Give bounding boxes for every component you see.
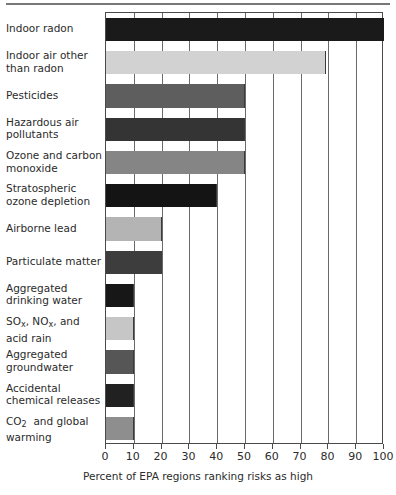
category-label: Accidentalchemical releases bbox=[6, 382, 103, 407]
x-tick-label-0: 0 bbox=[102, 450, 109, 464]
category-label-line: than radon bbox=[6, 62, 103, 75]
category-label: Aggregateddrinking water bbox=[6, 282, 103, 307]
x-tick-70 bbox=[300, 444, 301, 449]
bar-row bbox=[106, 18, 382, 41]
category-label: Indoor radon bbox=[6, 22, 103, 35]
top-divider-rule bbox=[6, 3, 390, 5]
bar-row bbox=[106, 251, 382, 274]
bar-row bbox=[106, 284, 382, 307]
category-label-line: Aggregated bbox=[6, 282, 103, 295]
bar-row bbox=[106, 217, 382, 240]
x-tick-label-80: 80 bbox=[320, 450, 334, 464]
bar-row bbox=[106, 118, 382, 141]
x-tick-30 bbox=[188, 444, 189, 449]
category-label: Hazardous airpollutants bbox=[6, 116, 103, 141]
category-label-line: groundwater bbox=[6, 361, 103, 374]
bar bbox=[106, 217, 162, 240]
bar bbox=[106, 18, 384, 41]
category-label-line: pollutants bbox=[6, 128, 103, 141]
bar bbox=[106, 251, 162, 274]
bar-row bbox=[106, 84, 382, 107]
category-label-line: Accidental bbox=[6, 382, 103, 395]
x-tick-label-60: 60 bbox=[265, 450, 279, 464]
bar bbox=[106, 350, 134, 373]
chart-figure: Indoor radonIndoor air otherthan radonPe… bbox=[0, 0, 396, 495]
category-label: Airborne lead bbox=[6, 222, 103, 235]
x-tick-label-70: 70 bbox=[293, 450, 307, 464]
category-label: Aggregatedgroundwater bbox=[6, 348, 103, 373]
category-label: Ozone and carbonmonoxide bbox=[6, 149, 103, 174]
bar-series bbox=[106, 13, 382, 443]
x-tick-label-30: 30 bbox=[181, 450, 195, 464]
bar bbox=[106, 317, 134, 340]
category-label: CO2 and globalwarming bbox=[6, 415, 103, 444]
bar bbox=[106, 118, 245, 141]
category-label-line: chemical releases bbox=[6, 394, 103, 407]
category-label-line: Indoor radon bbox=[6, 22, 103, 35]
x-axis-title: Percent of EPA regions ranking risks as … bbox=[0, 470, 396, 482]
bar-row bbox=[106, 417, 382, 440]
plot-area bbox=[105, 12, 383, 444]
bar-row bbox=[106, 51, 382, 74]
x-tick-80 bbox=[327, 444, 328, 449]
category-label-line: Pesticides bbox=[6, 89, 103, 102]
bar-row bbox=[106, 151, 382, 174]
x-tick-label-20: 20 bbox=[154, 450, 168, 464]
bar bbox=[106, 384, 134, 407]
category-label-line: SOx, NOx, and bbox=[6, 315, 103, 332]
bar bbox=[106, 151, 245, 174]
bar bbox=[106, 51, 326, 74]
x-axis-tick-labels: 0102030405060708090100 bbox=[0, 450, 396, 466]
category-axis-labels: Indoor radonIndoor air otherthan radonPe… bbox=[0, 12, 103, 444]
x-tick-label-10: 10 bbox=[126, 450, 140, 464]
category-label-line: Ozone and carbon bbox=[6, 149, 103, 162]
x-tick-100 bbox=[383, 444, 384, 449]
bar bbox=[106, 284, 134, 307]
category-label-line: CO2 and global bbox=[6, 415, 103, 432]
category-label-line: Indoor air other bbox=[6, 49, 103, 62]
x-tick-20 bbox=[161, 444, 162, 449]
bar bbox=[106, 84, 245, 107]
x-tick-60 bbox=[272, 444, 273, 449]
x-tick-10 bbox=[133, 444, 134, 449]
category-label-line: ozone depletion bbox=[6, 195, 103, 208]
category-label: Indoor air otherthan radon bbox=[6, 49, 103, 74]
category-label-line: Airborne lead bbox=[6, 222, 103, 235]
category-label: Particulate matter bbox=[6, 255, 103, 268]
bar bbox=[106, 417, 134, 440]
x-tick-90 bbox=[355, 444, 356, 449]
bar bbox=[106, 184, 217, 207]
x-tick-label-100: 100 bbox=[373, 450, 394, 464]
category-label-line: Stratospheric bbox=[6, 182, 103, 195]
x-tick-40 bbox=[216, 444, 217, 449]
category-label-line: monoxide bbox=[6, 162, 103, 175]
x-tick-0 bbox=[105, 444, 106, 449]
category-label-line: Particulate matter bbox=[6, 255, 103, 268]
category-label: Stratosphericozone depletion bbox=[6, 182, 103, 207]
category-label-line: Aggregated bbox=[6, 348, 103, 361]
bar-row bbox=[106, 317, 382, 340]
category-label: SOx, NOx, andacid rain bbox=[6, 315, 103, 344]
bar-row bbox=[106, 384, 382, 407]
category-label: Pesticides bbox=[6, 89, 103, 102]
category-label-line: drinking water bbox=[6, 294, 103, 307]
category-label-line: Hazardous air bbox=[6, 116, 103, 129]
bar-row bbox=[106, 184, 382, 207]
category-label-line: acid rain bbox=[6, 332, 103, 345]
bar-row bbox=[106, 350, 382, 373]
x-tick-label-40: 40 bbox=[209, 450, 223, 464]
x-tick-label-90: 90 bbox=[348, 450, 362, 464]
x-tick-50 bbox=[244, 444, 245, 449]
category-label-line: warming bbox=[6, 431, 103, 444]
x-tick-label-50: 50 bbox=[237, 450, 251, 464]
